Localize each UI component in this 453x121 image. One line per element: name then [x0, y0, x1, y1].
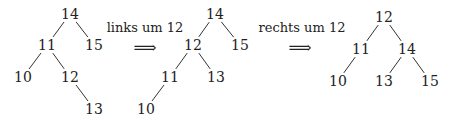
- implies-arrow-icon: ⟹: [134, 38, 157, 57]
- node-10: 10: [329, 73, 347, 89]
- edge-14-15: [76, 22, 88, 37]
- edge-12-13: [199, 53, 210, 69]
- edge-12-11: [367, 25, 378, 41]
- implies-arrow-icon: ⟹: [289, 38, 312, 57]
- node-15: 15: [85, 37, 103, 53]
- edge-14-15: [413, 57, 424, 73]
- tree-before: 141115101213: [14, 6, 103, 117]
- node-13: 13: [207, 69, 225, 85]
- node-12: 12: [184, 37, 202, 53]
- node-10: 10: [137, 101, 155, 117]
- node-11: 11: [38, 37, 56, 53]
- edge-11-10: [152, 85, 164, 101]
- node-12: 12: [375, 9, 393, 25]
- node-15: 15: [421, 73, 439, 89]
- node-12: 12: [61, 69, 79, 85]
- node-11: 11: [161, 69, 179, 85]
- edge-11-10: [29, 53, 41, 69]
- edge-11-12: [53, 53, 64, 69]
- edge-11-10: [344, 57, 355, 73]
- tree-after-right-rotation: 121114101315: [329, 9, 439, 89]
- edge-14-13: [390, 57, 401, 73]
- node-13: 13: [85, 101, 103, 117]
- edge-14-11: [53, 22, 64, 37]
- node-14: 14: [398, 41, 416, 57]
- node-14: 14: [61, 6, 79, 22]
- node-11: 11: [352, 41, 370, 57]
- transition-1: rechts um 12⟹: [259, 20, 346, 57]
- edge-14-12: [199, 22, 209, 37]
- node-13: 13: [375, 73, 393, 89]
- rotation-diagram: 141115101213141215111310121114101315link…: [0, 0, 453, 121]
- transition-0: links um 12⟹: [107, 20, 184, 57]
- node-10: 10: [14, 69, 32, 85]
- node-14: 14: [206, 6, 224, 22]
- transition-label: links um 12: [107, 20, 184, 35]
- transition-label: rechts um 12: [259, 20, 346, 35]
- edge-12-14: [390, 25, 401, 41]
- edge-12-13: [76, 85, 88, 101]
- node-15: 15: [231, 37, 249, 53]
- edge-12-11: [176, 53, 187, 69]
- edge-14-15: [221, 22, 233, 37]
